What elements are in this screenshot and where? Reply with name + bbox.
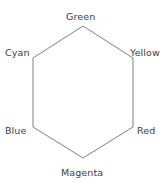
vertex-label-magenta: Magenta xyxy=(61,167,103,178)
hexagon-shape xyxy=(0,0,165,183)
vertex-label-cyan: Cyan xyxy=(5,47,30,58)
vertex-label-yellow: Yellow xyxy=(130,47,160,58)
vertex-label-red: Red xyxy=(137,125,155,136)
hexagon-outline xyxy=(33,26,133,158)
vertex-label-blue: Blue xyxy=(5,125,26,136)
color-hexagon-diagram: Green Cyan Yellow Blue Red Magenta xyxy=(0,0,165,183)
vertex-label-green: Green xyxy=(66,11,95,22)
